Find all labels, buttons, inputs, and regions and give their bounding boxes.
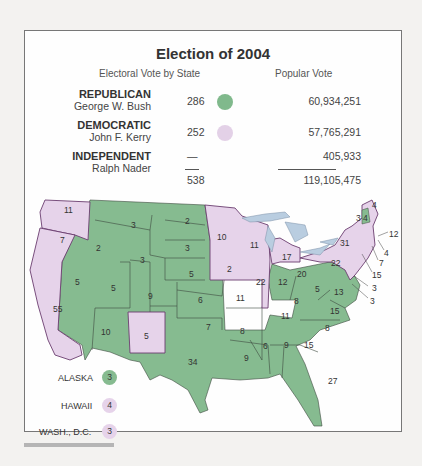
- state-label: 15: [304, 340, 314, 350]
- state-label: 9: [244, 353, 249, 363]
- alaska-ev-badge: 3: [102, 370, 117, 385]
- state-label: 4: [372, 200, 377, 210]
- dc-ev-badge: 3: [102, 424, 117, 439]
- state-label: 31: [340, 238, 350, 248]
- state-label: 9: [284, 340, 289, 350]
- state-label: 11: [236, 293, 245, 303]
- state-label: 7: [206, 322, 211, 332]
- state-label: 5: [144, 331, 149, 341]
- alaska-label: ALASKA: [58, 373, 93, 383]
- state-label: 11: [250, 240, 259, 250]
- state-label: 15: [372, 270, 382, 280]
- state-label: 9: [148, 291, 153, 301]
- state-label: 12: [389, 229, 399, 239]
- state-label: 22: [256, 277, 266, 287]
- state-label: 5: [75, 277, 80, 287]
- footer-rule: [24, 443, 114, 447]
- state-label: 2: [227, 264, 232, 274]
- state-label: 10: [217, 232, 227, 242]
- state-label: 13: [334, 287, 344, 297]
- state-label: 5: [111, 283, 116, 293]
- state-label: 8: [325, 323, 330, 333]
- state-label: 4: [363, 213, 368, 223]
- hawaii-label: HAWAII: [61, 401, 92, 411]
- dc-label: WASH., D.C.: [39, 427, 91, 437]
- us-electoral-map: 11 7 55 2 5 3 3 5 10 9 5 2 3 5 6 7 34 10…: [0, 0, 422, 466]
- state-label: 3: [356, 213, 361, 223]
- state-label: 5: [315, 284, 320, 294]
- state-label: 6: [198, 295, 203, 305]
- state-label: 3: [372, 283, 377, 293]
- state-label: 55: [53, 304, 63, 314]
- state-label: 22: [331, 258, 341, 268]
- state-label: 3: [185, 243, 190, 253]
- state-label: 17: [282, 252, 292, 262]
- state-label: 3: [370, 296, 375, 306]
- state-label: 7: [60, 235, 65, 245]
- state-label: 2: [185, 216, 190, 226]
- state-label: 5: [189, 269, 194, 279]
- state-label: 12: [278, 277, 288, 287]
- state-label: 8: [240, 326, 245, 336]
- state-label: 7: [379, 258, 384, 268]
- state-label: 34: [188, 357, 198, 367]
- state-label: 4: [384, 248, 389, 258]
- state-label: 10: [101, 327, 111, 337]
- state-label: 27: [328, 376, 338, 386]
- state-label: 6: [263, 341, 268, 351]
- state-label: 3: [131, 220, 136, 230]
- hawaii-ev-badge: 4: [102, 398, 117, 413]
- state-label: 15: [330, 306, 340, 316]
- state-label: 2: [96, 243, 101, 253]
- state-label: 11: [64, 205, 73, 215]
- state-label: 8: [294, 296, 299, 306]
- state-label: 11: [281, 311, 290, 321]
- state-label: 3: [140, 255, 145, 265]
- state-label: 20: [297, 269, 307, 279]
